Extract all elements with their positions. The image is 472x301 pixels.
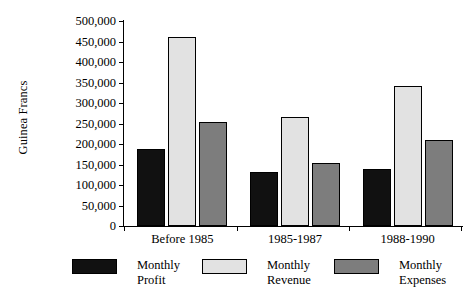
x-axis-category-label: 1988-1990 (381, 232, 435, 247)
y-axis-tick-mark (119, 185, 124, 186)
y-axis-tick-label: 450,000 (75, 35, 116, 48)
y-axis-tick-label: 300,000 (75, 97, 116, 110)
x-axis-tick-mark (349, 226, 350, 231)
legend-label-line2: Revenue (267, 273, 311, 288)
y-axis-tick-mark (119, 103, 124, 104)
y-axis-tick-label: 100,000 (75, 179, 116, 192)
chart-legend: MonthlyProfitMonthlyRevenueMonthlyExpens… (0, 258, 472, 301)
y-axis-tick-label: 500,000 (75, 15, 116, 28)
bar-group (137, 21, 227, 226)
bar-monthly-revenue[interactable] (168, 37, 196, 226)
y-axis-tick-mark (119, 144, 124, 145)
y-axis-tick-mark (119, 124, 124, 125)
bar-monthly-revenue[interactable] (394, 86, 422, 226)
bar-monthly-profit[interactable] (137, 149, 165, 226)
light-gray-swatch (202, 259, 247, 274)
legend-item-monthly-revenue[interactable]: MonthlyRevenue (202, 258, 311, 288)
legend-label-line2: Expenses (399, 273, 446, 288)
bar-monthly-expenses[interactable] (425, 140, 453, 226)
medium-gray-swatch (334, 259, 379, 274)
x-axis-tick-mark (461, 226, 462, 231)
black-swatch (72, 259, 117, 274)
x-axis-tick-mark (237, 226, 238, 231)
y-axis-tick-mark (119, 165, 124, 166)
bar-monthly-expenses[interactable] (199, 122, 227, 226)
bar-chart: Guinea Francs 050,000100,000150,000200,0… (0, 0, 472, 301)
y-axis-tick-mark (119, 42, 124, 43)
y-axis-tick-labels: 050,000100,000150,000200,000250,000300,0… (20, 21, 116, 226)
bar-group (250, 21, 340, 226)
y-axis-tick-label: 200,000 (75, 138, 116, 151)
y-axis-tick-mark (119, 206, 124, 207)
legend-item-monthly-expenses[interactable]: MonthlyExpenses (334, 258, 446, 288)
legend-label-line1: Monthly (399, 258, 446, 273)
legend-label-line1: Monthly (267, 258, 311, 273)
bar-group (363, 21, 453, 226)
y-axis-tick-label: 50,000 (82, 199, 116, 212)
legend-item-monthly-profit[interactable]: MonthlyProfit (72, 258, 180, 288)
bar-monthly-revenue[interactable] (281, 117, 309, 226)
legend-label-line2: Profit (137, 273, 180, 288)
plot-area (124, 21, 462, 226)
y-axis-tick-label: 150,000 (75, 158, 116, 171)
x-axis-category-label: Before 1985 (151, 232, 213, 247)
x-axis-line (123, 226, 463, 227)
y-axis-tick-mark (119, 83, 124, 84)
y-axis-tick-label: 350,000 (75, 76, 116, 89)
y-axis-tick-mark (119, 21, 124, 22)
y-axis-tick-label: 250,000 (75, 117, 116, 130)
bar-monthly-expenses[interactable] (312, 163, 340, 226)
bar-monthly-profit[interactable] (363, 169, 391, 226)
y-axis-tick-mark (119, 62, 124, 63)
x-axis-category-label: 1985-1987 (268, 232, 322, 247)
y-axis-tick-label: 400,000 (75, 56, 116, 69)
y-axis-tick-label: 0 (110, 220, 116, 233)
bar-monthly-profit[interactable] (250, 172, 278, 226)
legend-label-line1: Monthly (137, 258, 180, 273)
x-axis-tick-mark (124, 226, 125, 231)
